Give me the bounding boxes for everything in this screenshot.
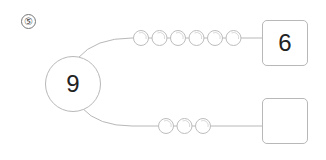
question-number: ⑤ [21, 14, 36, 29]
part-box-bottom[interactable] [262, 98, 308, 144]
whole-number-circle: 9 [45, 56, 101, 112]
part-box-top[interactable]: 6 [262, 20, 308, 66]
bead-group-bottom [159, 119, 211, 134]
